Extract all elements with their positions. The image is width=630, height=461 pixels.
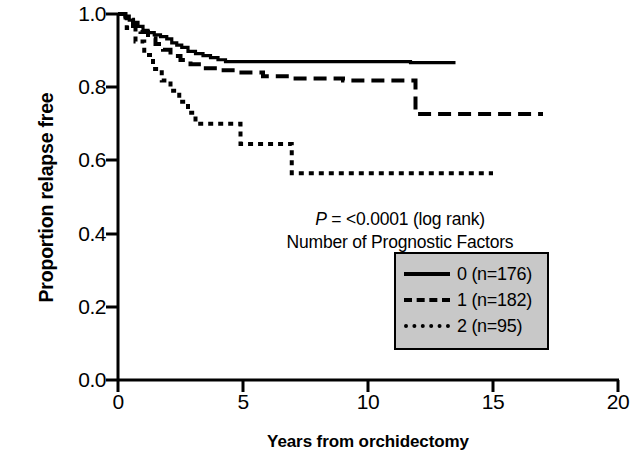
legend-label-2: 2 (n=95) — [457, 317, 522, 335]
x-axis-title: Years from orchidectomy — [118, 432, 618, 452]
statistics-annotation: P = <0.0001 (log rank) Number of Prognos… — [185, 208, 615, 255]
legend-swatch-solid-icon — [404, 272, 450, 276]
p-symbol: P — [315, 209, 326, 229]
curve-1-factors — [118, 14, 543, 114]
legend: 0 (n=176) 1 (n=182) 2 (n=95) — [394, 252, 549, 350]
kaplan-meier-figure: 1.0 0.8 0.6 0.4 0.2 0.0 0 5 10 15 20 Pro… — [0, 0, 630, 461]
curve-2-factors — [118, 14, 493, 173]
p-value-text: = <0.0001 (log rank) — [327, 209, 485, 229]
legend-item-1: 1 (n=182) — [404, 287, 532, 313]
curve-0-factors — [118, 14, 456, 63]
legend-label-0: 0 (n=176) — [457, 265, 532, 283]
y-tick-marks — [106, 14, 118, 380]
p-value-line: P = <0.0001 (log rank) — [185, 208, 615, 231]
legend-item-0: 0 (n=176) — [404, 261, 532, 287]
legend-label-1: 1 (n=182) — [457, 291, 532, 309]
survival-curves — [118, 14, 543, 173]
legend-swatch-dashed-icon — [404, 298, 450, 302]
y-axis-title: Proportion relapse free — [35, 48, 58, 348]
legend-item-2: 2 (n=95) — [404, 313, 522, 339]
legend-swatch-dotted-icon — [404, 324, 450, 328]
